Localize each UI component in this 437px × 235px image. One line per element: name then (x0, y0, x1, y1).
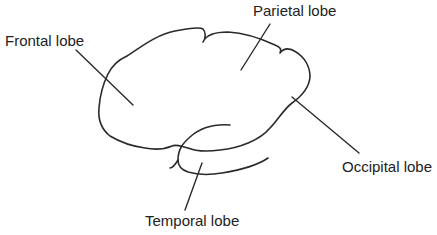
brain-lobes-diagram: Frontal lobe Parietal lobe Occipital lob… (0, 0, 437, 235)
frontal-lobe-label: Frontal lobe (5, 32, 84, 49)
occipital-leader-line (292, 97, 359, 153)
brain-outline (99, 28, 310, 151)
temporal-leader-line (185, 163, 202, 210)
occipital-lobe-label: Occipital lobe (342, 158, 432, 175)
temporal-lobe-base (170, 160, 178, 168)
parietal-lobe-label: Parietal lobe (253, 2, 336, 19)
temporal-lobe-label: Temporal lobe (145, 212, 239, 229)
frontal-leader-line (76, 50, 133, 105)
parietal-leader-line (241, 24, 270, 70)
